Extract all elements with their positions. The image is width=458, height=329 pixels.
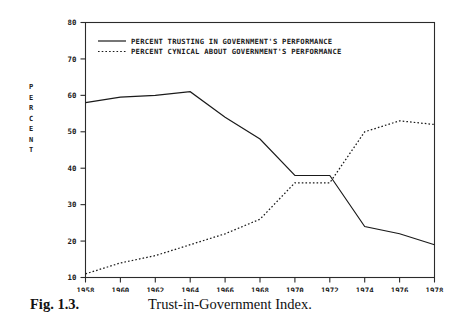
y-axis-title-letter-5: N (24, 135, 38, 146)
y-axis-title-letter-1: E (24, 93, 38, 104)
y-axis-title: PERCENT (24, 82, 38, 156)
x-tick-label-1968: 1968 (251, 286, 269, 292)
plot-frame (86, 23, 435, 278)
x-tick-label-1970: 1970 (286, 286, 304, 292)
y-tick-label-60: 60 (68, 91, 77, 100)
chart-plot-area: 1020304050607080195819601962196419661968… (0, 0, 458, 292)
y-axis-title-letter-2: R (24, 103, 38, 114)
x-tick-label-1964: 1964 (181, 286, 199, 292)
y-tick-label-80: 80 (68, 18, 77, 27)
x-tick-label-1958: 1958 (77, 286, 95, 292)
y-tick-label-30: 30 (68, 200, 77, 209)
legend-label-trusting: PERCENT TRUSTING IN GOVERNMENT'S PERFORM… (131, 37, 332, 46)
y-axis-title-letter-3: C (24, 114, 38, 125)
y-axis-title-letter-6: T (24, 145, 38, 156)
y-axis-title-letter-4: E (24, 124, 38, 135)
x-tick-label-1972: 1972 (321, 286, 339, 292)
y-tick-label-40: 40 (68, 164, 77, 173)
x-tick-label-1976: 1976 (391, 286, 409, 292)
line-chart-svg: 1020304050607080195819601962196419661968… (0, 0, 458, 292)
x-tick-label-1974: 1974 (356, 286, 374, 292)
y-tick-label-20: 20 (68, 237, 77, 246)
figure-caption: Fig. 1.3. Trust-in-Government Index. (0, 296, 458, 324)
y-axis-title-letter-0: P (24, 82, 38, 93)
x-tick-label-1960: 1960 (111, 286, 129, 292)
series-line-trusting (86, 92, 435, 245)
x-tick-label-1962: 1962 (146, 286, 164, 292)
y-tick-label-70: 70 (68, 55, 77, 64)
figure-title: Trust-in-Government Index. (148, 296, 312, 313)
figure-number: Fig. 1.3. (30, 296, 79, 313)
y-tick-label-10: 10 (68, 273, 77, 282)
figure-trust-in-government: 1020304050607080195819601962196419661968… (0, 0, 458, 329)
x-tick-label-1966: 1966 (216, 286, 234, 292)
y-tick-label-50: 50 (68, 127, 77, 136)
legend-label-cynical: PERCENT CYNICAL ABOUT GOVERNMENT'S PERFO… (131, 47, 342, 56)
series-line-cynical (86, 121, 435, 274)
x-tick-label-1978: 1978 (426, 286, 444, 292)
